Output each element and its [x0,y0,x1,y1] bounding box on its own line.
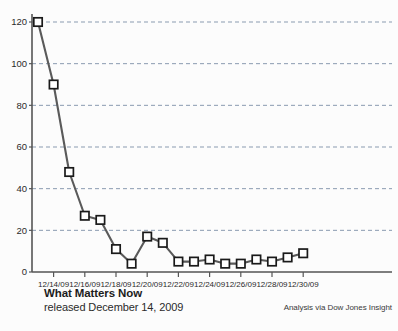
y-tick-label: 0 [22,266,27,277]
data-point-marker [283,253,291,261]
y-tick-label: 40 [16,183,27,194]
data-point-marker [252,255,260,263]
data-point-marker [221,259,229,267]
data-point-marker [237,259,245,267]
data-point-marker [174,257,182,265]
x-tick-label: 12/30/09 [288,280,320,289]
caption-subtitle: released December 14, 2009 [44,301,183,314]
data-point-marker [143,232,151,240]
data-point-marker [127,259,135,267]
data-series-line [38,22,303,264]
y-tick-label: 60 [16,141,27,152]
data-point-marker [205,255,213,263]
attribution-text: Analysis via Dow Jones Insight [284,303,392,312]
data-point-marker [159,239,167,247]
x-tick-label: 12/24/09 [194,280,226,289]
chart-figure: 02040608010012012/14/0912/16/0912/18/091… [0,0,398,331]
data-point-marker [190,257,198,265]
data-point-marker [34,18,42,26]
data-point-marker [49,80,57,88]
x-tick-label: 12/28/09 [256,280,288,289]
data-point-marker [299,249,307,257]
y-tick-label: 100 [11,58,27,69]
data-point-marker [65,168,73,176]
data-point-marker [112,245,120,253]
line-chart-plot: 02040608010012012/14/0912/16/0912/18/091… [0,0,398,331]
caption-title: What Matters Now [44,287,183,300]
data-point-marker [268,257,276,265]
y-tick-label: 80 [16,100,27,111]
data-point-marker [96,216,104,224]
data-point-marker [81,212,89,220]
y-tick-label: 20 [16,225,27,236]
x-tick-label: 12/26/09 [225,280,257,289]
y-tick-label: 120 [11,16,27,27]
caption-block: What Matters Now released December 14, 2… [44,287,183,314]
